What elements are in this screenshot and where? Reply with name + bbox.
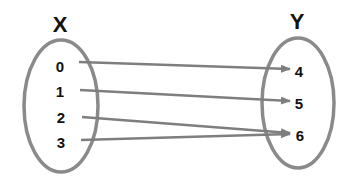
mapping-diagram: X 0 1 2 3 Y 4 5 6	[0, 0, 349, 187]
set-x-element: 1	[56, 83, 64, 100]
set-y-element: 6	[296, 127, 304, 144]
set-y-element: 5	[295, 95, 303, 112]
diagram-canvas: X 0 1 2 3 Y 4 5 6	[0, 0, 349, 187]
mapping-arrows	[79, 62, 290, 140]
arrow-1-to-5	[80, 90, 290, 101]
set-x-element: 2	[57, 109, 65, 126]
set-y-element: 4	[295, 63, 304, 80]
set-x-label: X	[53, 12, 68, 37]
set-x-element: 3	[57, 134, 65, 151]
arrow-0-to-4	[79, 62, 290, 69]
set-x-element: 0	[56, 58, 64, 75]
set-y: Y 4 5 6	[262, 9, 334, 168]
arrow-2-to-6	[82, 117, 290, 133]
arrow-3-to-6	[81, 134, 290, 140]
set-x: X 0 1 2 3	[24, 12, 98, 172]
set-y-label: Y	[290, 9, 305, 34]
